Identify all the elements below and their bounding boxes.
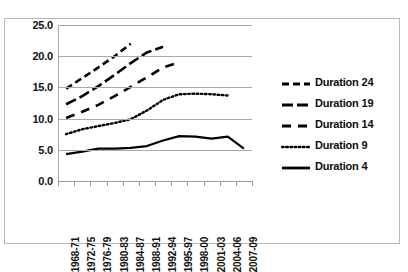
legend-item-label: Duration 24 <box>315 76 373 88</box>
y-axis-tick-label: 15.0 <box>32 81 53 93</box>
x-axis-tick <box>204 181 205 186</box>
gridline <box>58 56 252 57</box>
x-axis-tick <box>220 181 221 186</box>
legend-line-sample-icon <box>281 97 311 109</box>
chart-legend: Duration 24Duration 19Duration 14Duratio… <box>281 71 397 176</box>
y-axis-tick-label: 20.0 <box>32 50 53 62</box>
x-axis-tick <box>155 181 156 186</box>
x-axis-tick-label: 1972-75 <box>86 237 97 272</box>
x-axis-tick <box>58 181 59 186</box>
plot-area <box>58 25 252 181</box>
chart-frame: 25.020.015.010.05.00.0 1968-711972-75197… <box>4 18 400 244</box>
x-axis-tick-label: 1968-71 <box>70 237 81 272</box>
series-lines <box>58 25 252 181</box>
series-line <box>66 44 131 89</box>
x-axis-tick <box>252 181 253 186</box>
series-line <box>66 94 228 135</box>
series-line <box>66 136 244 154</box>
chart-plot-wrapper: 25.020.015.010.05.00.0 1968-711972-75197… <box>5 19 401 245</box>
x-axis-tick-label: 1988-91 <box>151 237 162 272</box>
gridline <box>58 25 252 26</box>
x-axis-tick-label: 1984-87 <box>135 237 146 272</box>
legend-item-duration-9[interactable]: Duration 9 <box>281 134 397 155</box>
legend-item-duration-19[interactable]: Duration 19 <box>281 92 397 113</box>
x-axis-tick <box>123 181 124 186</box>
x-axis-tick-label: 1976-79 <box>102 237 113 272</box>
y-axis-tick-label: 5.0 <box>38 144 53 156</box>
gridline <box>58 87 252 88</box>
x-axis-tick-label: 2001-03 <box>216 237 227 272</box>
x-axis-tick-label: 2004-06 <box>232 237 243 272</box>
legend-line-sample-icon <box>281 160 311 172</box>
x-axis-ticks <box>58 181 252 186</box>
legend-item-duration-24[interactable]: Duration 24 <box>281 71 397 92</box>
legend-item-label: Duration 9 <box>315 139 367 151</box>
x-axis-tick-label: 1998-00 <box>199 237 210 272</box>
legend-item-label: Duration 14 <box>315 118 373 130</box>
x-axis-tick-label: 1980-83 <box>119 237 130 272</box>
x-axis-tick-label: 2007-09 <box>248 237 259 272</box>
x-axis-tick <box>139 181 140 186</box>
x-axis-tick <box>107 181 108 186</box>
legend-item-duration-14[interactable]: Duration 14 <box>281 113 397 134</box>
legend-line-sample-icon <box>281 139 311 151</box>
legend-item-duration-4[interactable]: Duration 4 <box>281 155 397 176</box>
legend-line-sample-icon <box>281 118 311 130</box>
x-axis-tick <box>187 181 188 186</box>
gridline <box>58 150 252 151</box>
y-axis-tick-label: 10.0 <box>32 113 53 125</box>
x-axis-tick <box>171 181 172 186</box>
x-axis-tick <box>90 181 91 186</box>
legend-item-label: Duration 4 <box>315 160 367 172</box>
legend-line-sample-icon <box>281 76 311 88</box>
x-axis-tick <box>74 181 75 186</box>
x-axis-tick-label: 1992-94 <box>167 237 178 272</box>
x-axis-tick-label: 1995-97 <box>183 237 194 272</box>
x-axis-tick <box>236 181 237 186</box>
x-axis-tick-labels: 1968-711972-751976-791980-831984-871988-… <box>58 187 252 239</box>
y-axis-tick-label: 25.0 <box>32 19 53 31</box>
y-axis-tick-label: 0.0 <box>38 175 53 187</box>
legend-item-label: Duration 19 <box>315 97 373 109</box>
gridline <box>58 119 252 120</box>
series-line <box>66 62 179 118</box>
y-axis-tick-labels: 25.020.015.010.05.00.0 <box>11 25 53 181</box>
